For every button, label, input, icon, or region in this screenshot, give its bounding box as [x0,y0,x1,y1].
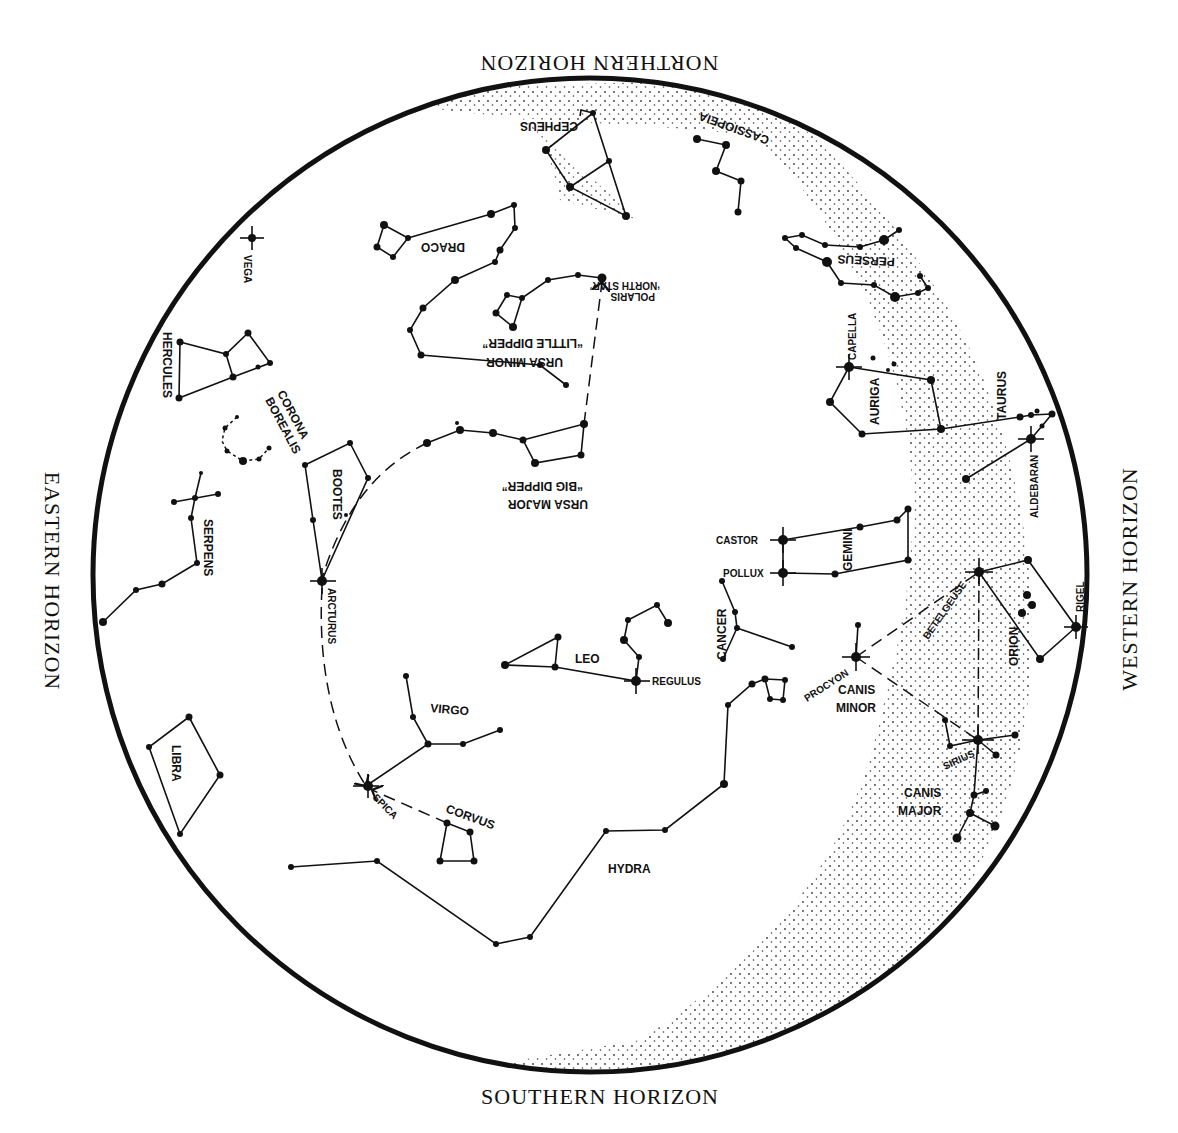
label-corvus: CORVUS [444,802,497,833]
constellation-leo: LEO [501,602,672,681]
label-orion: ORION [1007,627,1021,666]
label-libra: LIBRA [169,745,183,782]
constellation-corona-borealis: CORONA BOREALIS [222,388,312,465]
label-bootes: BOOTES [330,469,344,520]
label-perseus: PERSEUS [837,252,895,269]
pointer-to-polaris [584,282,602,424]
constellation-cancer: CANCER [715,578,795,662]
label-ursa-minor: URSA MINOR [486,355,563,369]
label-cancer: CANCER [715,608,729,660]
label-aldebaran: ALDEBARAN [1029,455,1040,518]
star-spica: SPICA [353,774,400,821]
constellation-hercules: HERCULES [160,330,273,402]
label-canis-minor-1: CANIS [838,683,875,697]
constellation-gemini: GEMINI [783,506,912,578]
label-hydra: HYDRA [608,862,651,876]
label-hercules: HERCULES [160,332,174,398]
constellation-corvus: CORVUS [372,790,497,865]
label-canis-major-1: CANIS [904,786,941,800]
star-arcturus: ARCTURUS [310,568,337,644]
constellation-ursa-major: “BIG DIPPER” URSA MAJOR [423,420,588,511]
label-taurus: TAURUS [995,371,1009,420]
label-big-dipper: “BIG DIPPER” [502,479,583,493]
label-serpens: SERPENS [201,519,215,576]
label-capella: CAPELLA [847,313,858,360]
label-pollux: POLLUX [723,568,764,579]
label-rigel: RIGEL [1075,581,1086,612]
label-canis-major-2: MAJOR [898,804,942,818]
label-regulus: REGULUS [652,676,701,687]
constellation-bootes: BOOTES [302,440,371,580]
label-draco: DRACO [421,240,465,254]
triangle-betelgeuse-sirius [978,572,979,740]
constellation-ursa-minor: “LITTLE DIPPER” URSA MINOR ‘NORTH STAR’ … [482,272,660,369]
label-arcturus: ARCTURUS [326,588,337,644]
label-little-dipper: “LITTLE DIPPER” [482,336,583,350]
label-ursa-major: URSA MAJOR [507,497,588,511]
label-castor: CASTOR [716,535,759,546]
constellation-canis-minor: PROCYON CANIS MINOR [802,622,876,715]
constellation-serpens: SERPENS [99,471,221,626]
label-canis-minor-2: MINOR [836,701,876,715]
star-pollux: POLLUX [723,560,796,586]
constellation-virgo: VIRGO [366,673,503,786]
label-polaris: POLARIS [610,291,655,302]
label-vega: VEGA [242,255,253,283]
constellation-hydra: HYDRA [288,676,788,948]
star-castor: CASTOR [716,527,796,553]
label-gemini: GEMINI [841,528,855,571]
label-auriga: AURIGA [868,377,882,425]
label-cepheus: CEPHEUS [520,119,578,133]
label-north-star: ‘NORTH STAR’ [589,280,660,291]
star-vega: VEGA [240,226,264,283]
label-virgo: VIRGO [430,701,470,718]
star-regulus: REGULUS [624,668,701,694]
star-chart: CEPHEUS CASSIOPEIA PERSEUS DRACO [0,0,1178,1133]
label-leo: LEO [575,652,600,666]
